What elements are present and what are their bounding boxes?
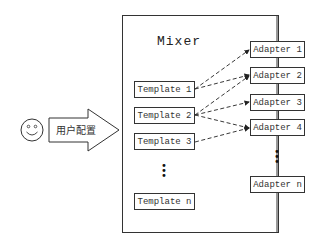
smiley-face-icon	[21, 119, 43, 141]
adapter-ellipsis: •••	[272, 149, 282, 164]
template-n-node: Template n	[134, 193, 195, 210]
template-3-node: Template 3	[134, 133, 195, 150]
mixer-title: Mixer	[157, 34, 201, 49]
adapter-2-node: Adapter 2	[250, 67, 305, 84]
adapter-3-node: Adapter 3	[250, 94, 305, 111]
adapter-4-node: Adapter 4	[250, 119, 305, 136]
template-1-node: Template 1	[134, 81, 195, 98]
adapter-n-node: Adapter n	[250, 176, 305, 193]
user-config-label: 用户配置	[56, 122, 96, 137]
template-2-node: Template 2	[134, 107, 195, 124]
adapter-1-node: Adapter 1	[250, 41, 305, 58]
template-ellipsis: •••	[159, 163, 169, 178]
